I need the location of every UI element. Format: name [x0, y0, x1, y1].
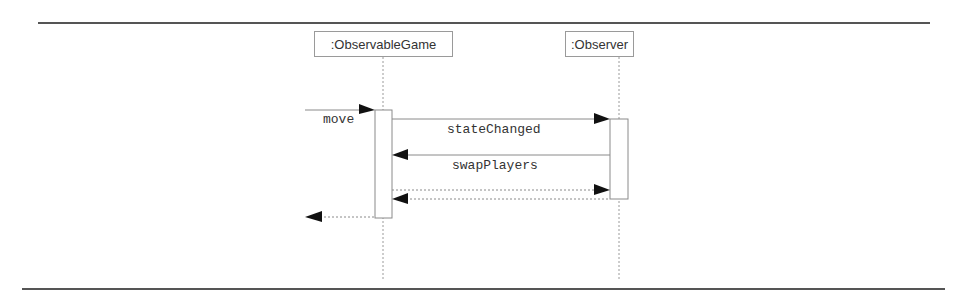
participant-label: :Observer	[571, 37, 628, 52]
return-to-caller-arrow	[305, 211, 375, 222]
activation-bar-observer	[610, 119, 628, 199]
filled-arrowhead-icon	[305, 211, 322, 222]
filled-arrowhead-icon	[594, 113, 610, 124]
filled-arrowhead-icon	[392, 149, 408, 160]
participant-observer: :Observer	[565, 31, 634, 57]
message-label-move: move	[323, 112, 354, 127]
filled-arrowhead-icon	[594, 184, 610, 195]
return-to-observer-arrow	[392, 184, 610, 195]
return-to-game-arrow	[392, 193, 610, 204]
filled-arrowhead-icon	[392, 193, 408, 204]
participant-label: :ObservableGame	[331, 37, 437, 52]
activation-bar-observable-game	[375, 110, 392, 218]
message-label-state-changed: stateChanged	[447, 122, 541, 137]
message-label-swap-players: swapPlayers	[452, 158, 538, 173]
filled-arrowhead-icon	[359, 104, 375, 114]
participant-observable-game: :ObservableGame	[314, 31, 453, 57]
sequence-diagram-canvas	[0, 0, 967, 299]
